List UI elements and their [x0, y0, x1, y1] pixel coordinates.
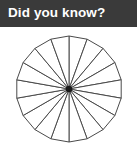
figure-area [0, 27, 137, 150]
did-you-know-widget: Did you know? [0, 0, 137, 150]
center-point-dot [66, 86, 72, 92]
header-bar: Did you know? [0, 0, 137, 27]
fraction-circle-diagram [0, 27, 137, 150]
page-title: Did you know? [8, 5, 105, 20]
